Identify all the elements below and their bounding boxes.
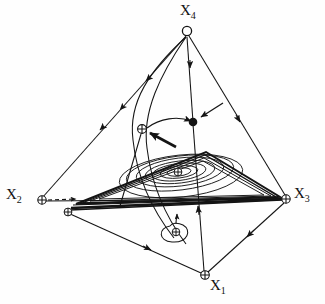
orbit-saddle-to-sink [147, 118, 191, 128]
vertex-marker-x1[interactable] [201, 271, 210, 280]
edge-x2-x1-arrow [143, 246, 151, 250]
vertex-marker-x2[interactable] [38, 196, 46, 204]
edge-x3-x1 [208, 203, 284, 272]
vertex-label-x2: X2 [6, 186, 22, 205]
vertex-label-x3: X3 [294, 185, 310, 204]
vertex-label-x4: X4 [180, 2, 196, 21]
equilibrium-marker-front-focus[interactable] [172, 228, 180, 236]
front-spiral-arrow [176, 214, 177, 224]
edge-x3-x1-arrow [247, 230, 254, 237]
edge-x4-x2 [42, 36, 186, 198]
equilibrium-marker-spiral-center[interactable] [174, 168, 182, 176]
equilibrium-marker-corner-left[interactable] [64, 208, 72, 216]
vertex-marker-x4[interactable] [182, 26, 191, 35]
vertex-label-x1: X1 [210, 277, 226, 296]
vertex-marker-x3[interactable] [282, 195, 290, 203]
edge-x4-x1-upper [187, 37, 193, 122]
annotation-arrow-to-sink[interactable] [201, 103, 223, 117]
equilibrium-marker-saddle-left[interactable] [138, 125, 147, 134]
tetrahedron-diagram [0, 0, 325, 304]
equilibrium-marker-sink[interactable] [189, 118, 198, 127]
edge-x2-dashed-arrow [48, 199, 76, 200]
annotation-arrow-to-saddle[interactable] [150, 133, 176, 147]
tetrahedron-edges [42, 36, 285, 273]
edge-x2-x1 [68, 213, 201, 273]
phase-portrait-figure: X4 X2 X3 X1 [0, 0, 325, 304]
